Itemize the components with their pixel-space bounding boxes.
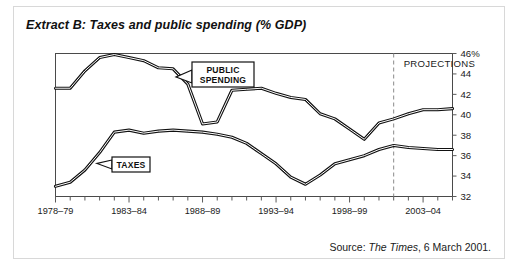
figure-title: Extract B: Taxes and public spending (% …	[26, 18, 306, 32]
source-prefix: Source:	[329, 241, 368, 253]
source-suffix: , 6 March 2001.	[418, 241, 491, 253]
source-publication: The Times	[369, 241, 419, 253]
source-note: Source: The Times, 6 March 2001.	[329, 241, 491, 253]
figure-panel	[13, 6, 505, 259]
